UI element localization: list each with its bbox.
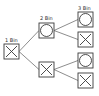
edge-n2a-n3b — [54, 31, 78, 40]
edge-n1-n2b — [19, 52, 39, 70]
node-box — [39, 23, 54, 38]
edge-n2a-n3a — [54, 20, 78, 31]
node-n2b — [39, 62, 54, 77]
bin-tree-diagram: 1 Bin 2 Bin 3 Bin — [0, 0, 99, 96]
level-label-1: 1 Bin — [5, 37, 18, 43]
node-n3b — [78, 32, 93, 47]
node-box — [78, 53, 93, 68]
node-n3d — [78, 73, 93, 88]
node-n3a — [78, 12, 93, 27]
level-label-3: 3 Bin — [78, 5, 91, 11]
node-n2a — [39, 23, 54, 38]
node-n3c — [78, 53, 93, 68]
nodes — [4, 12, 93, 88]
edge-n2b-n3c — [54, 61, 78, 70]
edge-n2b-n3d — [54, 70, 78, 81]
node-box — [78, 12, 93, 27]
level-label-2: 2 Bin — [40, 15, 53, 21]
node-n1 — [4, 44, 19, 59]
edge-n1-n2a — [19, 31, 39, 52]
